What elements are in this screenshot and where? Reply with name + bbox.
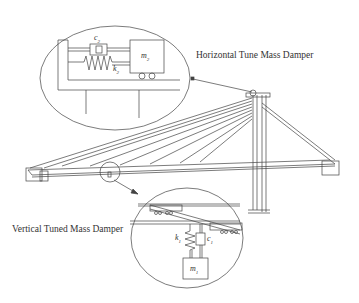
horizontal-tmd-callout [40, 26, 190, 130]
spring-k1-label: k1 [175, 233, 181, 244]
mass-m2-label: m2 [141, 51, 149, 62]
damper-c1-label: c1 [207, 234, 213, 245]
bridge-diagram [0, 0, 359, 303]
horizontal-tmd-label: Horizontal Tune Mass Damper [196, 50, 313, 60]
spring-k1-subscript: 1 [179, 239, 182, 244]
mass-m2-subscript: 2 [147, 57, 150, 62]
spring-k2-subscript: 2 [117, 70, 120, 75]
vertical-tmd-label: Vertical Tuned Mass Damper [12, 224, 123, 234]
mass-m1-label: m1 [190, 264, 198, 275]
vertical-tmd-callout [131, 188, 243, 288]
mass-m1-subscript: 1 [196, 270, 199, 275]
damper-c2-label: c2 [94, 33, 100, 44]
spring-k2-label: k2 [113, 64, 119, 75]
damper-c2-subscript: 2 [98, 39, 101, 44]
damper-c1-subscript: 1 [211, 240, 214, 245]
